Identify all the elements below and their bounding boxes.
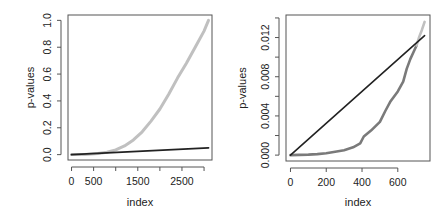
y-axis-label: p-values xyxy=(24,66,36,108)
x-tick-label: 500 xyxy=(85,175,103,187)
x-axis-label: index xyxy=(127,196,154,208)
x-tick-label: 0 xyxy=(69,175,75,187)
y-tick-label: 1.0 xyxy=(41,13,53,28)
series-line xyxy=(291,36,425,156)
x-axis-label: index xyxy=(345,196,372,208)
y-tick-label: 0.8 xyxy=(41,40,53,55)
y-axis-label: p-values xyxy=(236,67,248,109)
y-tick-label: 0.008 xyxy=(259,63,271,89)
y-tick-label: 0.004 xyxy=(259,103,271,129)
figure: 0500150025000.00.20.40.60.81.0indexp-val… xyxy=(0,0,447,220)
x-tick-label: 2500 xyxy=(170,175,194,187)
right-plot: 02004006000.0000.0040.0080.012indexp-val… xyxy=(236,15,430,208)
y-tick-label: 0.2 xyxy=(41,120,53,135)
y-tick-label: 0.012 xyxy=(259,24,271,50)
series-line xyxy=(72,20,209,154)
y-tick-label: 0.4 xyxy=(41,93,53,108)
x-tick-label: 400 xyxy=(353,176,371,188)
plot-frame xyxy=(68,15,212,160)
x-tick-label: 0 xyxy=(288,176,294,188)
left-plot: 0500150025000.00.20.40.60.81.0indexp-val… xyxy=(24,13,212,208)
x-tick-label: 600 xyxy=(389,176,407,188)
x-tick-label: 1500 xyxy=(126,175,150,187)
x-tick-label: 200 xyxy=(317,176,335,188)
series-line xyxy=(72,148,209,155)
y-tick-label: 0.6 xyxy=(41,67,53,82)
y-tick-label: 0.0 xyxy=(41,147,53,162)
y-tick-label: 0.000 xyxy=(259,142,271,168)
